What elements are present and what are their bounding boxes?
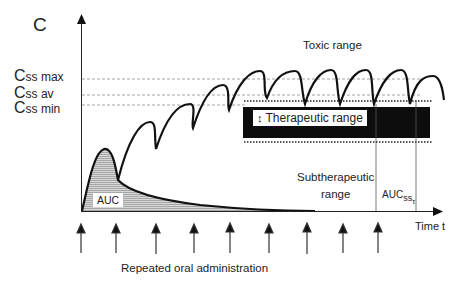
toxic-range-label: Toxic range [303, 39, 362, 51]
css-min-label: Css min [14, 99, 60, 117]
diagram-canvas [0, 0, 461, 289]
css-max-label: Css max [14, 67, 64, 85]
subtherapeutic-line2: range [297, 186, 374, 203]
dose-arrows [77, 223, 382, 254]
double-arrow-icon: ↕ [257, 112, 263, 124]
x-axis-arrow-icon [433, 207, 443, 216]
y-axis-arrow-icon [77, 14, 86, 24]
subtherapeutic-line1: Subtherapeutic [297, 169, 374, 186]
x-axis-label: Time t [415, 220, 445, 232]
css-max-sub: ss max [26, 70, 64, 84]
css-max-main: C [14, 67, 26, 84]
therapeutic-range-text: Therapeutic range [266, 111, 363, 125]
subtherapeutic-range-label: Subtherapeutic range [297, 169, 374, 203]
auc-ss-sub: ss [403, 193, 412, 203]
dosing-label: Repeated oral administration [121, 262, 268, 274]
therapeutic-range-label: ↕Therapeutic range [253, 110, 367, 126]
css-min-main: C [14, 99, 26, 116]
auc-ss-label: AUCssτ [382, 189, 415, 205]
auc-ss-main: AUC [382, 189, 403, 200]
css-min-sub: ss min [26, 102, 61, 116]
auc-label: AUC [93, 193, 123, 207]
auc-ss-tau: τ [412, 198, 415, 205]
y-axis-label: C [33, 14, 47, 36]
